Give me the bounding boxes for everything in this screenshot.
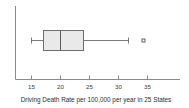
- x-tick-label: 30: [115, 83, 122, 90]
- interquartile-box: [44, 31, 84, 51]
- x-tick-label: 20: [57, 83, 64, 90]
- x-tick-label: 35: [144, 83, 151, 90]
- x-tick-label: 25: [86, 83, 93, 90]
- x-tick-label: 15: [28, 83, 35, 90]
- plot-background: [0, 0, 189, 108]
- x-axis-title: Driving Death Rate per 100,000 per year …: [21, 96, 172, 104]
- boxplot-figure: 15 20 25 30 35 Driving Death Rate per 10: [0, 0, 189, 108]
- boxplot-canvas: 15 20 25 30 35 Driving Death Rate per 10: [0, 0, 189, 108]
